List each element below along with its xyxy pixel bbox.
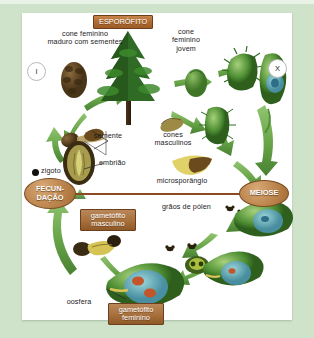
ovule-right-lower-icon	[203, 252, 264, 286]
seed-embryo-icon	[63, 141, 95, 185]
zygote-dot-icon	[32, 169, 39, 176]
label-zygote: zigoto	[41, 167, 75, 175]
male-gametophyte-icon	[73, 235, 121, 256]
female-gametophyte-tag: gametófito feminino	[108, 303, 164, 325]
male-gametophyte-tag: gametófito masculino	[80, 209, 136, 231]
cycle-axis-line	[62, 193, 256, 195]
ploidy-left-badge: I	[27, 62, 46, 81]
label-microsporangium: microsporângio	[147, 177, 217, 185]
diagram-frame: ESPORÓFITO I X cone feminino maduro com …	[0, 0, 314, 338]
label-seed: semente	[84, 132, 132, 140]
microsporangium-icon	[172, 155, 212, 175]
label-young-female-cone: cone feminino jovem	[162, 28, 210, 53]
young-female-cone-icon	[185, 69, 207, 97]
label-mature-female-cone: cone feminino maduro com sementes	[26, 30, 144, 47]
label-male-cones: cones masculinos	[147, 131, 199, 148]
sporophyte-header: ESPORÓFITO	[93, 15, 153, 29]
female-gametophyte-icon	[106, 263, 184, 307]
ploidy-right-badge: X	[268, 59, 287, 78]
meiosis-label: MEIOSE	[239, 180, 289, 207]
diagram-panel: ESPORÓFITO I X cone feminino maduro com …	[22, 13, 292, 320]
label-pollen-grains: grãos de pólen	[162, 203, 224, 211]
fertilization-label: FECUN- DAÇÃO	[24, 178, 76, 209]
label-egg-cell: oosfera	[58, 298, 100, 306]
ovuliferous-scale-icon	[222, 46, 264, 91]
label-embryo: embrião	[99, 159, 143, 167]
mature-female-cone-icon	[61, 62, 87, 98]
